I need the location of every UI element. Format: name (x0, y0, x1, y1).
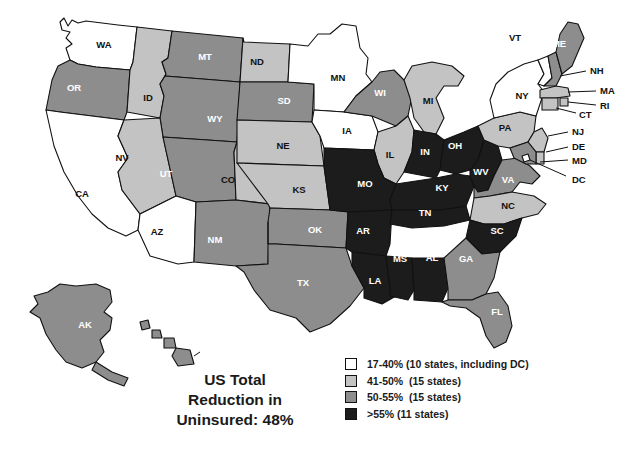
ri-leader (568, 102, 596, 105)
us-choropleth-map-figure: WAORIDMTWYNDSDNEMNIAWIMICANVUTCOAZNMKSOK… (0, 0, 630, 452)
state-WY[interactable] (160, 76, 240, 142)
state-label-MI: MI (423, 95, 434, 106)
legend-swatch-3 (345, 391, 357, 403)
state-label-AL: AL (426, 252, 439, 263)
state-RI[interactable] (560, 98, 568, 106)
state-HI-3[interactable] (164, 338, 176, 348)
state-callout-label-DC: DC (572, 174, 586, 185)
state-label-AZ: AZ (151, 226, 164, 237)
state-label-NY: NY (515, 90, 529, 101)
state-label-IL: IL (386, 149, 395, 160)
state-label-HI: HI (202, 346, 212, 357)
state-label-KS: KS (292, 184, 305, 195)
state-AK-pen[interactable] (92, 362, 128, 386)
map-caption: US Total Reduction in Uninsured: 48% (150, 370, 320, 429)
ct-leader (556, 108, 576, 113)
state-label-SD: SD (277, 95, 290, 106)
state-label-OR: OR (67, 82, 81, 93)
state-label-MT: MT (198, 51, 212, 62)
legend-item-3: 50-55% (15 states) (345, 389, 529, 406)
legend-swatch-4 (345, 408, 357, 420)
state-label-NM: NM (208, 234, 223, 245)
state-HI-4[interactable] (172, 348, 194, 366)
state-label-NV: NV (115, 152, 129, 163)
state-HI-1[interactable] (140, 320, 150, 330)
state-label-TN: TN (419, 207, 432, 218)
state-callout-label-CT: CT (579, 109, 592, 120)
legend-swatch-2 (345, 375, 357, 387)
state-DC[interactable] (522, 154, 530, 162)
state-callout-label-MD: MD (572, 155, 587, 166)
state-label-ME: ME (552, 38, 566, 49)
state-label-OK: OK (308, 224, 322, 235)
ma-leader (568, 91, 596, 92)
state-callout-label-RI: RI (600, 100, 610, 111)
state-label-AK: AK (78, 319, 92, 330)
state-label-VA: VA (502, 174, 515, 185)
state-label-CA: CA (75, 188, 89, 199)
state-label-MS: MS (393, 253, 407, 264)
state-label-NC: NC (501, 200, 515, 211)
state-label-WA: WA (96, 39, 111, 50)
legend-item-1: 17-40% (10 states, including DC) (345, 356, 529, 373)
callout-label-group: NHMACTRINJDEMDDC (572, 65, 615, 185)
state-HI-2[interactable] (152, 330, 162, 338)
state-label-KY: KY (435, 182, 449, 193)
legend-swatch-1 (345, 358, 357, 370)
state-FL[interactable] (442, 292, 512, 348)
legend-item-4: >55% (11 states) (345, 406, 529, 423)
state-SD[interactable] (237, 82, 314, 122)
legend-item-2: 41-50% (15 states) (345, 373, 529, 390)
state-label-LA: LA (369, 275, 382, 286)
state-label-GA: GA (459, 253, 473, 264)
state-label-MN: MN (331, 72, 346, 83)
caption-line-2: Reduction in (150, 390, 320, 410)
state-label-FL: FL (491, 306, 503, 317)
state-label-IN: IN (420, 146, 430, 157)
state-label-MO: MO (357, 178, 372, 189)
state-label-WI: WI (374, 87, 386, 98)
state-label-AR: AR (356, 225, 370, 236)
state-callout-label-MA: MA (600, 85, 615, 96)
state-OR[interactable] (46, 60, 130, 120)
hi-leader (194, 352, 200, 356)
state-label-ND: ND (250, 56, 264, 67)
state-AL[interactable] (412, 258, 448, 302)
state-KY[interactable] (390, 174, 474, 210)
legend-label-1: 17-40% (10 states, including DC) (367, 358, 529, 370)
legend-label-4: >55% (11 states) (367, 408, 448, 420)
nj-leader (548, 132, 568, 136)
state-callout-label-DE: DE (572, 141, 585, 152)
state-label-ID: ID (143, 92, 153, 103)
state-CT[interactable] (542, 98, 558, 110)
legend-label-2: 41-50% (15 states) (367, 375, 461, 387)
state-label-WY: WY (207, 113, 223, 124)
caption-line-1: US Total (150, 370, 320, 390)
state-ND[interactable] (240, 38, 290, 82)
state-MA[interactable] (540, 86, 570, 98)
caption-line-3: Uninsured: 48% (150, 410, 320, 430)
state-label-UT: UT (160, 168, 173, 179)
state-label-IA: IA (342, 125, 352, 136)
state-label-SC: SC (490, 225, 503, 236)
state-callout-label-NH: NH (590, 65, 604, 76)
state-label-TX: TX (297, 277, 310, 288)
map-legend: 17-40% (10 states, including DC) 41-50% … (345, 356, 529, 422)
state-label-PA: PA (499, 122, 512, 133)
state-label-CO: CO (221, 174, 235, 185)
state-AK[interactable] (30, 284, 112, 368)
state-MI[interactable] (404, 62, 464, 134)
state-callout-label-NJ: NJ (572, 126, 584, 137)
legend-label-3: 50-55% (15 states) (367, 391, 461, 403)
state-NM[interactable] (194, 200, 270, 266)
state-label-NE: NE (276, 140, 289, 151)
state-label-WV: WV (473, 166, 489, 177)
de-leader (546, 147, 568, 152)
state-label-OH: OH (448, 140, 462, 151)
state-label-VT: VT (509, 32, 521, 43)
